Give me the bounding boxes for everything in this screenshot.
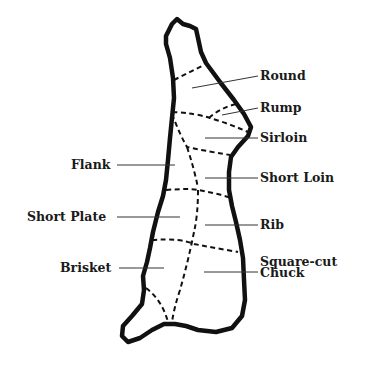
- label-rump: Rump: [260, 101, 301, 114]
- label-chuck: Chuck: [260, 266, 304, 279]
- label-brisket: Brisket: [60, 261, 111, 274]
- label-short-loin: Short Loin: [260, 171, 334, 184]
- label-short-plate: Short Plate: [27, 210, 106, 223]
- label-round: Round: [260, 69, 306, 82]
- label-rib: Rib: [260, 218, 284, 231]
- label-sirloin: Sirloin: [260, 131, 307, 144]
- carcass-outline: [122, 19, 251, 342]
- label-flank: Flank: [71, 158, 110, 171]
